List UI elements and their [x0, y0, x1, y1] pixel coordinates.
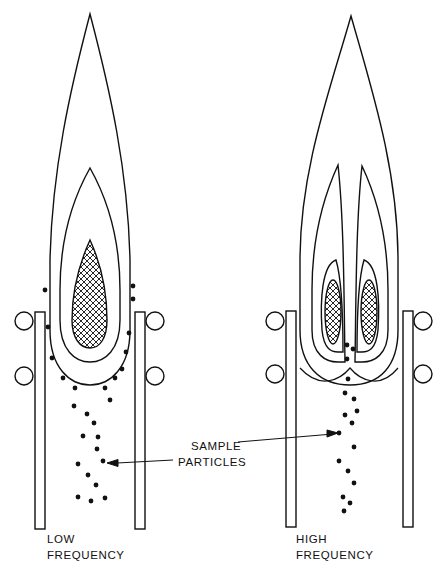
left-tube-wall: [286, 311, 296, 527]
high-frequency-label: HIGH FREQUENCY: [296, 531, 374, 563]
hot-core-left: [325, 280, 341, 344]
high-frequency-torch: [266, 16, 432, 527]
hot-core: [72, 240, 107, 348]
panel-label-line2: FREQUENCY: [47, 547, 125, 563]
coil-turn: [15, 367, 33, 385]
high-frequency-particles: [337, 343, 360, 514]
callout-line1: SAMPLE: [186, 438, 246, 454]
coil-turn: [15, 312, 33, 330]
coil-turn: [414, 365, 432, 383]
panel-label-line2: FREQUENCY: [296, 547, 374, 563]
sample-particles-label: SAMPLE PARTICLES: [186, 438, 246, 470]
outer-flame: [300, 16, 398, 385]
coil-turn: [146, 367, 164, 385]
coil-turn: [266, 365, 284, 383]
coil-turn: [414, 312, 432, 330]
coil-turn: [266, 312, 284, 330]
hot-core-right: [361, 280, 377, 344]
low-frequency-torch: [15, 14, 164, 529]
coil-turn: [146, 312, 164, 330]
left-tube-wall: [35, 312, 45, 529]
right-tube-wall: [403, 311, 413, 527]
panel-label-line1: HIGH: [296, 531, 374, 547]
callout-line2: PARTICLES: [178, 454, 246, 470]
right-tube-wall: [135, 312, 145, 529]
diagram-canvas: [0, 0, 445, 574]
panel-label-line1: LOW: [47, 531, 125, 547]
low-frequency-label: LOW FREQUENCY: [47, 531, 125, 563]
